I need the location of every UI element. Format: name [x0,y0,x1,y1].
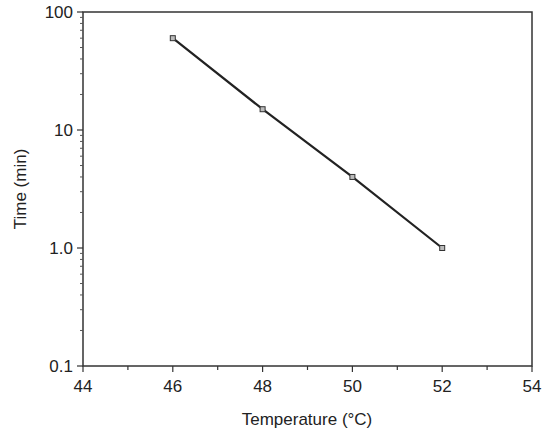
y-ticks: 0.11.010100 [45,3,83,376]
data-point-marker [350,174,355,179]
x-tick-label: 46 [163,377,182,396]
data-point-marker [440,246,445,251]
x-tick-label: 54 [523,377,542,396]
data-point-marker [170,36,175,41]
x-ticks: 444648505254 [74,366,542,396]
data-point-marker [260,107,265,112]
y-tick-label: 100 [45,3,73,22]
x-tick-label: 50 [343,377,362,396]
y-axis-title: Time (min) [11,149,30,230]
x-tick-label: 44 [74,377,93,396]
y-tick-label: 0.1 [49,357,73,376]
x-tick-label: 52 [433,377,452,396]
x-axis-title: Temperature (°C) [242,410,373,429]
y-tick-label: 10 [54,121,73,140]
y-tick-label: 1.0 [49,239,73,258]
plot-frame [83,12,532,366]
chart: 444648505254 0.11.010100 Temperature (°C… [0,0,550,442]
data-series [170,36,444,251]
x-tick-label: 48 [253,377,272,396]
series-line [173,38,442,248]
